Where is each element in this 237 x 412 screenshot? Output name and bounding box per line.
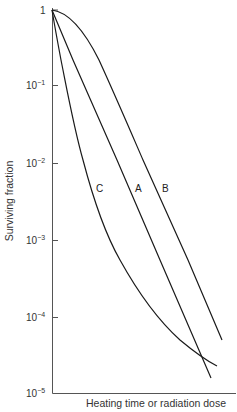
curve-label-c: C — [96, 183, 103, 194]
y-tick-label-1e-2: 10−2 — [26, 157, 45, 169]
y-tick-label-1: 1 — [40, 5, 46, 16]
curves — [52, 10, 222, 378]
y-tick-label-1e-1: 10−1 — [26, 79, 45, 91]
curve-label-b: B — [162, 183, 169, 194]
y-tick-label-1e-3: 10−3 — [26, 234, 45, 246]
x-axis-title: Heating time or radiation dose — [86, 397, 226, 409]
survival-curve-chart: 1 10−1 10−2 10−3 10−4 10−5 Surviving fra… — [0, 0, 236, 412]
axes — [53, 8, 237, 394]
curve-label-a: A — [135, 183, 142, 194]
curve-a — [52, 10, 211, 378]
y-tick-label-1e-4: 10−4 — [26, 311, 45, 323]
curve-b — [52, 10, 222, 340]
y-tick-labels: 1 10−1 10−2 10−3 10−4 10−5 — [26, 5, 46, 399]
y-axis-title: Surviving fraction — [3, 161, 15, 242]
y-tick-label-1e-5: 10−5 — [26, 387, 45, 399]
